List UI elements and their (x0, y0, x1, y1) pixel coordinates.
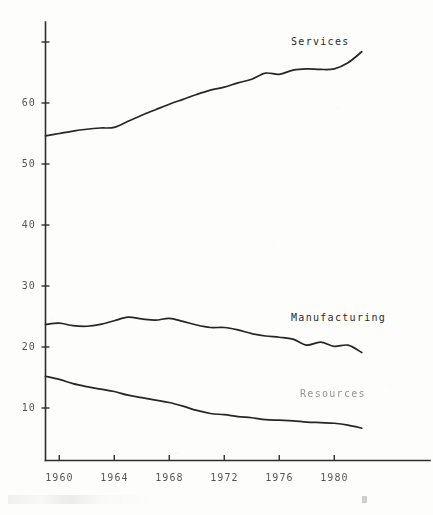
y-tick-label: 60 (8, 97, 36, 108)
x-tick-label: 1976 (265, 472, 293, 483)
x-tick-label: 1972 (210, 472, 238, 483)
series-line-services (46, 52, 362, 136)
y-tick-label: 40 (8, 219, 36, 230)
data-series-group (46, 52, 362, 428)
y-tick-label: 20 (8, 341, 36, 352)
page-smudge-bottom-right (362, 496, 367, 503)
series-label-manufacturing: Manufacturing (291, 312, 386, 323)
chart-plot-area (0, 0, 433, 515)
y-tick-label: 50 (8, 158, 36, 169)
axes (42, 22, 431, 461)
y-tick-label: 30 (8, 280, 36, 291)
series-label-resources: Resources (300, 388, 366, 399)
x-tick-label: 1968 (155, 472, 183, 483)
x-axis-ticks (59, 455, 334, 461)
series-label-services: Services (291, 36, 350, 47)
x-tick-label: 1980 (320, 472, 348, 483)
x-tick-label: 1964 (100, 472, 128, 483)
y-tick-label: 10 (8, 402, 36, 413)
chart-page: 102030405060 196019641968197219761980 Se… (0, 0, 433, 515)
series-line-resources (46, 376, 362, 428)
page-smudge-bottom-left (8, 495, 158, 504)
x-tick-label: 1960 (45, 472, 73, 483)
